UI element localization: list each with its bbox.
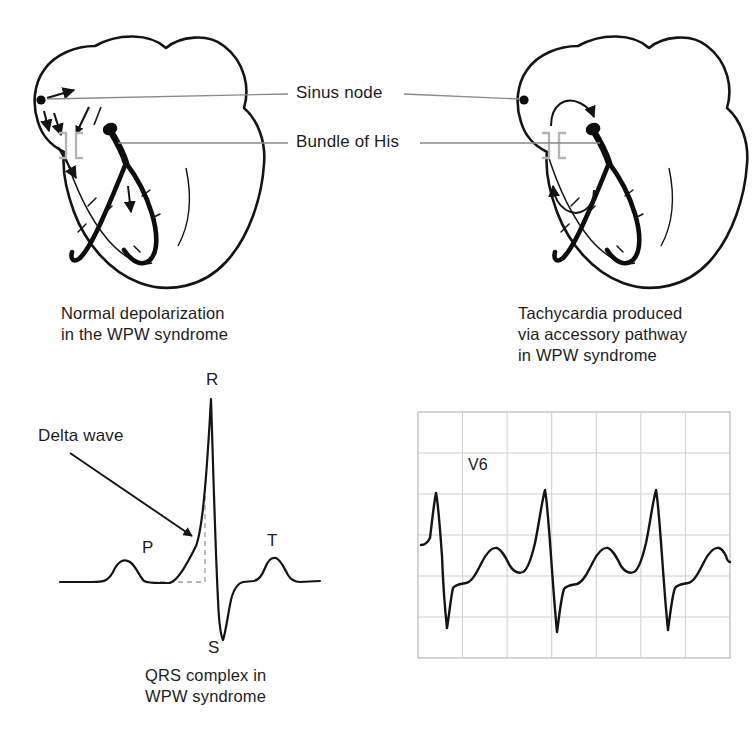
wpw-syndrome-figure: Sinus node Bundle of His Normal depolari… [0,0,753,736]
wave-label-r: R [206,370,218,390]
delta-wave-arrow [70,453,192,536]
sinus-node-dot-right [519,95,528,104]
callout-label-sinus-node: Sinus node [296,83,383,103]
left-heart-diagram [35,36,265,287]
qrs-caption-line2: WPW syndrome [145,686,266,707]
ecg-rhythm-strip [418,412,730,658]
wave-label-p: P [142,538,154,558]
leader-sinus-node-left [47,94,288,99]
conduction-right-branch-right [607,163,639,263]
depolarization-arrow-ventricular [128,186,131,212]
right-heart-caption-line2: via accessory pathway [518,324,687,345]
depolarization-arrow-down-2 [54,113,61,135]
conduction-his-bundle-right [593,130,609,163]
right-heart-diagram [518,36,748,287]
depolarization-arrow-down-1 [44,111,49,131]
accessory-pathway-left [178,168,189,246]
qrs-caption-line1: QRS complex in [145,665,266,686]
wave-label-t: T [267,531,278,551]
depolarization-arrow-accessory [76,107,89,134]
right-heart-caption-line1: Tachycardia produced [518,303,682,324]
depolarization-arrow-atrial [47,90,74,98]
left-heart-caption-line1: Normal depolarization [61,303,225,324]
reentry-loop-upper-arc [551,101,594,126]
reentry-loop-lower-arc [553,186,594,213]
av-valve-marker-right-b [559,133,566,158]
conduction-left-branch [71,163,126,260]
conduction-right-branch [124,163,156,263]
conduction-his-bundle-left [110,130,126,163]
left-heart-caption-line2: in the WPW syndrome [61,324,228,345]
wave-label-s: S [208,638,220,658]
heart-outline-left [35,36,265,287]
right-heart-caption-line3: in WPW syndrome [518,345,657,366]
depolarization-arrow-septal-short [94,107,101,125]
rhythm-strip-lead-label: V6 [468,456,488,474]
accessory-pathway-right [661,168,672,246]
av-valve-marker-left-b [76,133,83,158]
sinus-node-dot-left [36,95,45,104]
figure-vector-layer [0,0,753,736]
heart-outline-right [518,36,748,287]
leader-sinus-node-right [404,94,520,99]
callout-label-bundle-of-his: Bundle of His [296,132,399,152]
delta-wave-label: Delta wave [38,426,124,446]
